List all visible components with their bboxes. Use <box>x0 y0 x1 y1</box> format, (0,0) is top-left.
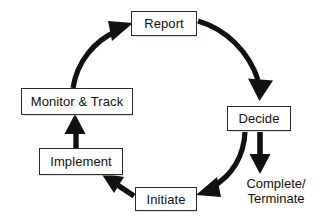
node-report[interactable]: Report <box>131 11 197 36</box>
node-report-label: Report <box>144 17 184 30</box>
label-complete-terminate: Complete/ Terminate <box>233 177 319 206</box>
node-implement-label: Implement <box>50 155 112 168</box>
node-implement[interactable]: Implement <box>39 148 123 175</box>
edge-report-to-decide <box>198 21 273 101</box>
node-decide[interactable]: Decide <box>227 106 291 131</box>
label-complete-line1: Complete/ <box>233 177 319 192</box>
node-monitor[interactable]: Monitor & Track <box>21 88 133 115</box>
node-monitor-label: Monitor & Track <box>31 95 124 108</box>
node-decide-label: Decide <box>238 112 279 125</box>
edge-initiate-to-implement <box>101 173 134 196</box>
node-initiate[interactable]: Initiate <box>135 187 197 211</box>
cycle-diagram: Report Decide Initiate Implement Monitor… <box>0 0 321 223</box>
node-initiate-label: Initiate <box>146 193 185 206</box>
label-complete-line2: Terminate <box>233 192 319 207</box>
edge-monitor-to-report <box>73 21 133 88</box>
edge-implement-to-monitor <box>65 114 86 148</box>
edge-decide-to-complete <box>250 132 271 174</box>
